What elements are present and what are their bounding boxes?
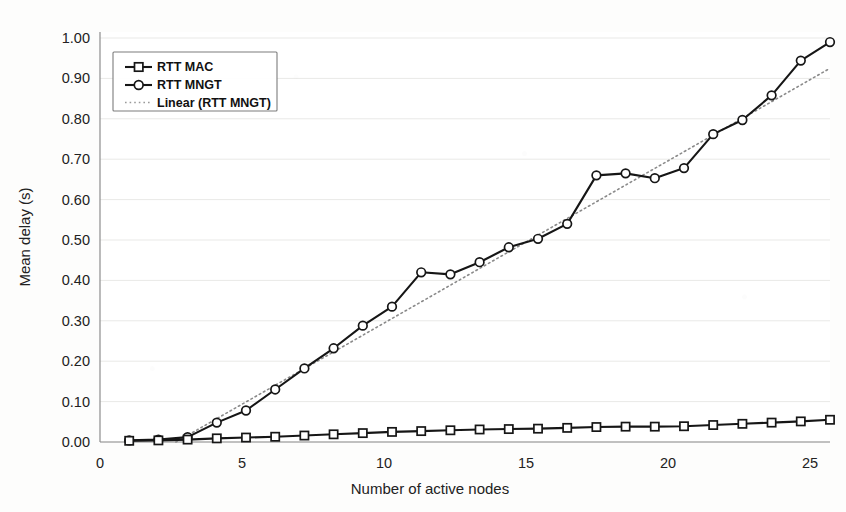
data-point-marker <box>592 171 601 180</box>
data-point-marker <box>329 344 338 353</box>
data-point-marker <box>271 385 280 394</box>
y-tick-label: 1.00 <box>62 30 90 46</box>
y-tick-label: 0.10 <box>62 394 90 410</box>
data-point-marker <box>505 243 514 252</box>
data-point-marker <box>154 436 162 444</box>
data-point-marker <box>709 130 718 139</box>
y-tick-label: 0.20 <box>62 353 90 369</box>
y-tick-label: 0.00 <box>62 434 90 450</box>
legend-marker-square <box>135 63 143 71</box>
data-point-marker <box>651 174 660 183</box>
chart-legend: RTT MAC RTT MNGT Linear (RTT MNGT) <box>113 52 277 111</box>
data-point-marker <box>330 430 338 438</box>
data-point-marker <box>300 364 309 373</box>
y-tick-label: 0.90 <box>62 70 90 86</box>
y-tick-label: 0.70 <box>62 151 90 167</box>
legend-label-linear: Linear (RTT MNGT) <box>157 96 271 110</box>
data-point-marker <box>680 164 689 173</box>
data-point-marker <box>213 418 222 427</box>
data-point-marker <box>826 416 834 424</box>
chart-figure: 1.00 0.90 0.80 0.70 0.60 0.50 0.40 0.30 … <box>0 0 846 512</box>
data-point-marker <box>563 220 572 229</box>
data-point-marker <box>534 425 542 433</box>
data-point-marker <box>768 419 776 427</box>
data-point-marker <box>621 169 630 178</box>
data-point-marker <box>300 431 308 439</box>
data-point-marker <box>738 116 747 125</box>
data-point-marker <box>563 424 571 432</box>
y-tick-label: 0.40 <box>62 272 90 288</box>
x-axis-title: Number of active nodes <box>351 480 509 497</box>
data-point-marker <box>592 423 600 431</box>
data-point-marker <box>622 423 630 431</box>
x-tick-label: 5 <box>238 455 246 471</box>
y-axis-title: Mean delay (s) <box>16 187 33 286</box>
y-tick-label: 0.50 <box>62 232 90 248</box>
data-point-marker <box>242 406 251 415</box>
data-point-marker <box>242 433 250 441</box>
data-point-marker <box>709 421 717 429</box>
data-point-marker <box>125 437 133 445</box>
data-point-marker <box>680 422 688 430</box>
legend-label-rtt-mngt: RTT MNGT <box>157 78 222 92</box>
y-tick-labels: 1.00 0.90 0.80 0.70 0.60 0.50 0.40 0.30 … <box>62 30 90 450</box>
x-tick-label: 25 <box>802 455 818 471</box>
y-tick-label: 0.60 <box>62 192 90 208</box>
data-point-marker <box>388 302 397 311</box>
x-tick-label: 15 <box>518 455 534 471</box>
data-point-marker <box>738 420 746 428</box>
data-point-marker <box>271 433 279 441</box>
x-tick-label: 10 <box>376 455 392 471</box>
legend-marker-circle <box>134 81 143 90</box>
data-point-marker <box>826 38 835 47</box>
data-point-marker <box>476 425 484 433</box>
data-point-marker <box>797 417 805 425</box>
line-chart: 1.00 0.90 0.80 0.70 0.60 0.50 0.40 0.30 … <box>0 0 846 512</box>
data-point-marker <box>417 268 426 277</box>
y-tick-label: 0.80 <box>62 111 90 127</box>
data-point-marker <box>213 434 221 442</box>
data-point-marker <box>534 234 543 243</box>
x-tick-label: 0 <box>96 455 104 471</box>
x-tick-label: 20 <box>660 455 676 471</box>
data-point-marker <box>797 56 806 65</box>
data-point-marker <box>359 321 368 330</box>
data-point-marker <box>475 258 484 267</box>
legend-label-rtt-mac: RTT MAC <box>157 60 213 74</box>
data-point-marker <box>651 423 659 431</box>
y-tick-label: 0.30 <box>62 313 90 329</box>
data-point-marker <box>359 429 367 437</box>
data-point-marker <box>505 425 513 433</box>
data-point-marker <box>184 435 192 443</box>
x-tick-labels: 0 5 10 15 20 25 <box>96 455 818 471</box>
data-point-marker <box>446 426 454 434</box>
data-point-marker <box>767 91 776 100</box>
data-point-marker <box>417 427 425 435</box>
data-point-marker <box>388 428 396 436</box>
data-point-marker <box>446 270 455 279</box>
